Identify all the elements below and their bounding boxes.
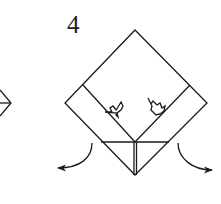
left-leaf-icon — [105, 102, 123, 117]
right-fold-line — [135, 85, 190, 142]
right-curved-arrow — [178, 143, 212, 170]
right-leaf-icon — [148, 98, 165, 115]
left-curved-arrow — [58, 143, 92, 168]
origami-diagram — [0, 0, 221, 204]
left-fold-line — [83, 85, 135, 142]
